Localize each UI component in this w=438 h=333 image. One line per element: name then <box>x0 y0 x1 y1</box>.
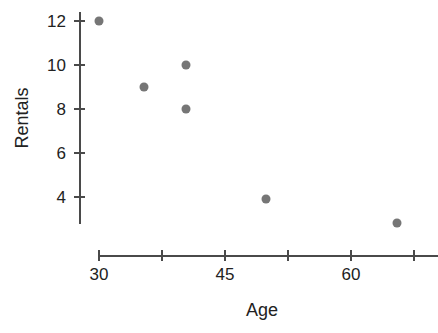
y-tick <box>74 196 85 198</box>
x-tick <box>413 250 415 261</box>
y-tick <box>74 108 85 110</box>
data-point <box>95 17 104 26</box>
x-tick <box>287 250 289 261</box>
y-tick <box>74 20 85 22</box>
x-tick-label: 60 <box>326 266 376 283</box>
y-axis-line <box>79 12 81 224</box>
x-tick <box>161 250 163 261</box>
x-axis-title: Age <box>246 300 278 321</box>
data-point <box>139 83 148 92</box>
x-axis-line <box>99 255 438 257</box>
y-tick <box>74 64 85 66</box>
data-point <box>262 195 271 204</box>
x-tick-label: 45 <box>200 266 250 283</box>
y-axis-title: Rentals <box>12 87 33 148</box>
scatter-chart: 4681012 304560 Rentals Age <box>0 0 438 333</box>
x-tick-label: 30 <box>74 266 124 283</box>
y-tick-label: 4 <box>26 189 66 206</box>
x-tick <box>98 250 100 261</box>
y-tick-label: 12 <box>26 13 66 30</box>
x-tick <box>350 250 352 261</box>
data-point <box>181 105 190 114</box>
x-tick <box>224 250 226 261</box>
data-point <box>181 61 190 70</box>
y-tick-label: 10 <box>26 57 66 74</box>
data-point <box>393 219 402 228</box>
y-tick <box>74 152 85 154</box>
